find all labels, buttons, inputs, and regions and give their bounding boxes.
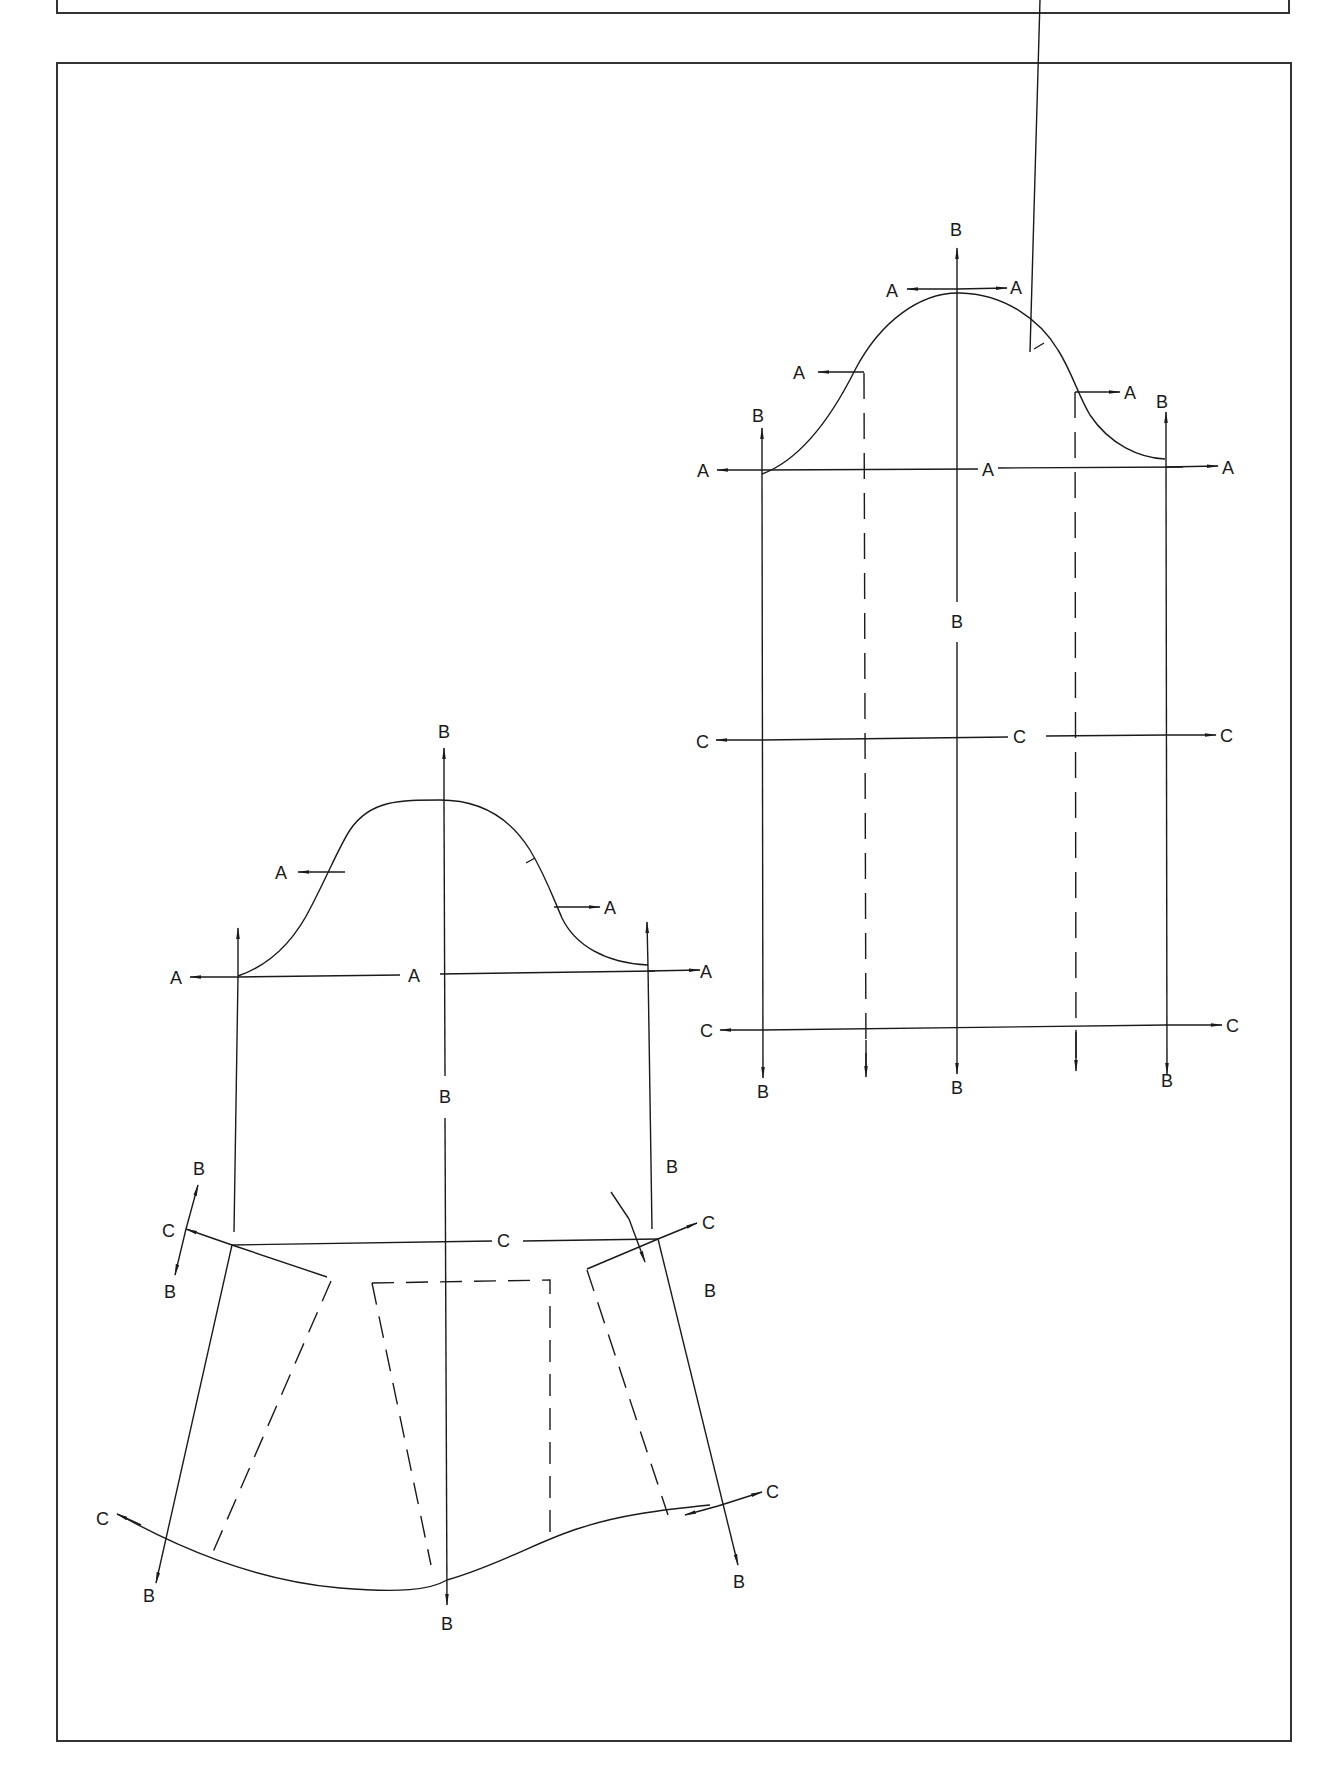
label-b: B (666, 1157, 678, 1177)
right-sleeve-figure (716, 0, 1222, 1078)
right-dashed-flare (587, 1270, 668, 1515)
label-b: B (1161, 1071, 1173, 1091)
label-a: A (982, 460, 994, 480)
label-c: C (702, 1213, 715, 1233)
label-a: A (1010, 278, 1022, 298)
label-b: B (193, 1159, 205, 1179)
label-b: B (164, 1282, 176, 1302)
label-c: C (162, 1221, 175, 1241)
label-c: C (1220, 726, 1233, 746)
label-b: B (1156, 392, 1168, 412)
label-b: B (752, 406, 764, 426)
label-a: A (275, 863, 287, 883)
label-a: A (1124, 383, 1136, 403)
label-b: B (438, 722, 450, 742)
label-b: B (441, 1614, 453, 1634)
label-b: B (143, 1586, 155, 1606)
left-hem-curve (125, 1505, 710, 1590)
label-b: B (704, 1281, 716, 1301)
label-c: C (700, 1021, 713, 1041)
right-figure-labels: B A A A A B B A A A B C C C C C B B B (696, 220, 1239, 1102)
left-figure-labels: B A A A A A B B C B B C B C C B B C B (96, 722, 779, 1634)
label-c: C (1226, 1016, 1239, 1036)
label-c: C (96, 1509, 109, 1529)
label-b: B (733, 1572, 745, 1592)
label-b: B (950, 220, 962, 240)
label-a: A (793, 363, 805, 383)
label-c: C (1013, 727, 1026, 747)
right-dashed-left (864, 373, 866, 1069)
label-c: C (766, 1482, 779, 1502)
right-dashed-right (1075, 392, 1076, 1062)
cap-notch (526, 858, 535, 863)
label-a: A (170, 968, 182, 988)
label-b: B (439, 1087, 451, 1107)
pattern-diagram: B A A A A B B A A A B C C C C C B B B (0, 0, 1326, 1787)
label-c: C (696, 732, 709, 752)
label-b: B (757, 1082, 769, 1102)
right-sleeve-cap-curve (762, 293, 1165, 474)
label-a: A (697, 461, 709, 481)
label-a: A (604, 898, 616, 918)
left-sleeve-cap-curve (238, 800, 648, 976)
label-b: B (951, 612, 963, 632)
label-a: A (408, 966, 420, 986)
cap-notch (1034, 343, 1044, 349)
label-a: A (886, 281, 898, 301)
label-a: A (1222, 458, 1234, 478)
label-a: A (700, 962, 712, 982)
left-dashed-flare (213, 1281, 331, 1552)
label-b: B (951, 1078, 963, 1098)
label-c: C (497, 1231, 510, 1251)
center-dashed-panel (372, 1280, 550, 1540)
